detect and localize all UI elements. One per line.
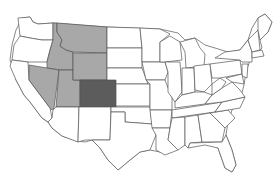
state-kansas [116,84,150,106]
state-arkansas [150,110,172,128]
state-new-jersey [242,64,248,78]
state-indiana [182,68,195,95]
state-north-dakota [107,27,142,48]
state-montana [57,23,107,53]
state-oregon [12,36,53,62]
state-south-dakota [107,48,142,68]
state-maine [258,14,272,40]
state-wyoming [73,53,107,80]
state-arizona [48,107,79,142]
us-map [0,0,280,192]
state-iowa [142,62,168,80]
state-colorado [80,80,116,107]
state-new-mexico [78,107,111,142]
